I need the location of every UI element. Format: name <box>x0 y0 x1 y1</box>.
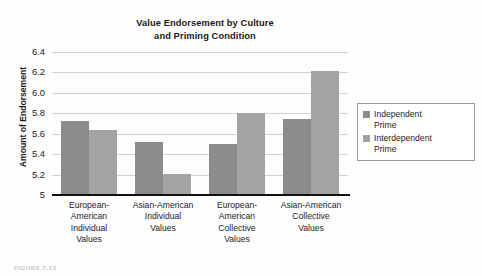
bar <box>135 142 163 195</box>
plot-area <box>52 52 348 195</box>
x-axis-category-label: Asian-AmericanIndividualValues <box>121 200 205 234</box>
bar <box>89 130 117 195</box>
bar <box>283 119 311 195</box>
y-axis-tick-label: 5.6 <box>5 128 45 139</box>
figure-container: Value Endorsement by Culture and Priming… <box>0 0 482 276</box>
chart-title-line-2: and Priming Condition <box>60 30 350 43</box>
bar <box>311 71 339 195</box>
y-axis-tick-label: 6.2 <box>5 66 45 77</box>
y-axis-tick-label: 6.0 <box>5 87 45 98</box>
y-axis-tick-label: 5 <box>5 189 45 200</box>
bar <box>209 144 237 195</box>
figure-caption: FIGURE 7.12 <box>14 264 57 271</box>
chart-title: Value Endorsement by Culture and Priming… <box>60 17 350 42</box>
y-axis-tick-label: 5.4 <box>5 148 45 159</box>
gridline <box>52 52 348 53</box>
y-axis-tick-label: 5.2 <box>5 169 45 180</box>
x-axis-category-label: Asian-AmericanCollectiveValues <box>269 200 353 234</box>
x-axis-category-label: European-AmericanIndividualValues <box>47 200 131 246</box>
bar <box>61 121 89 195</box>
gridline <box>52 93 348 94</box>
legend-item-interdependent-prime[interactable]: Interdependent Prime <box>363 133 470 154</box>
y-axis-tick-label: 5.8 <box>5 107 45 118</box>
x-axis-category-label: European-AmericanCollectiveValues <box>195 200 279 246</box>
bar <box>237 113 265 195</box>
legend-swatch-icon-independent <box>363 111 370 118</box>
legend-swatch-icon-interdependent <box>363 135 370 142</box>
chart-legend: Independent Prime Interdependent Prime <box>357 103 475 161</box>
gridline <box>52 72 348 73</box>
chart-title-line-1: Value Endorsement by Culture <box>60 17 350 30</box>
y-axis-tick-label: 6.4 <box>5 46 45 57</box>
bar <box>163 174 191 195</box>
gridline <box>52 113 348 114</box>
legend-item-independent-prime[interactable]: Independent Prime <box>363 109 470 130</box>
x-axis-line <box>52 194 350 196</box>
legend-label-independent: Independent Prime <box>374 109 422 130</box>
legend-label-interdependent: Interdependent Prime <box>374 133 432 154</box>
